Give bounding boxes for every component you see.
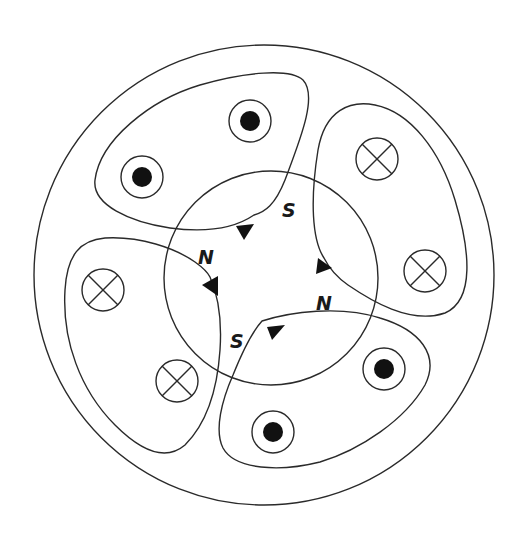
winding-loop-left xyxy=(65,238,221,453)
arrowhead-upper xyxy=(236,224,254,240)
machine-cross-section-diagram: N S N S xyxy=(0,0,526,542)
pole-label-n-lower-right: N xyxy=(316,292,332,314)
conductor-into-page-icon xyxy=(404,250,446,292)
arrowhead-lower xyxy=(267,325,285,340)
conductor-out-of-page-icon xyxy=(363,348,405,390)
conductor-out-of-page-icon xyxy=(121,156,163,198)
conductor-out-of-page-icon xyxy=(229,100,271,142)
conductor-into-page-icon xyxy=(356,138,398,180)
arrowhead-left xyxy=(202,276,218,296)
conductor-out-of-page-icon xyxy=(252,411,294,453)
winding-loop-lower xyxy=(219,311,430,468)
arrowhead-right xyxy=(316,258,332,274)
rotor-circle xyxy=(164,171,378,385)
winding-loop-upper xyxy=(95,73,309,230)
conductor-into-page-icon xyxy=(82,269,124,311)
pole-label-s-upper-right: S xyxy=(282,199,296,221)
pole-label-s-lower-left: S xyxy=(230,330,244,352)
winding-loop-right xyxy=(313,104,467,316)
conductor-into-page-icon xyxy=(156,360,198,402)
pole-label-n-upper-left: N xyxy=(198,246,214,268)
